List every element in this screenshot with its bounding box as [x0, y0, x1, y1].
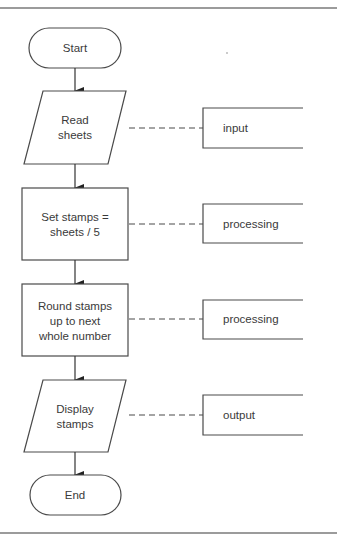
annotation-output-label: output	[223, 409, 256, 421]
scan-speck	[226, 52, 228, 54]
start-terminal: Start	[29, 28, 121, 68]
end-terminal: End	[30, 475, 121, 515]
annotation-processing-1: processing	[203, 204, 303, 243]
display-label-line1: Display	[56, 403, 94, 415]
read-label-line2: sheets	[58, 129, 92, 141]
set-label-line2: sheets / 5	[50, 226, 100, 238]
display-stamps-io: Display stamps	[24, 380, 126, 452]
annotation-processing-2-label: processing	[223, 313, 279, 325]
flowchart-diagram: Start Read sheets input Set stamps = she…	[0, 0, 337, 540]
annotation-input-label: input	[223, 122, 249, 134]
round-label-line2: up to next	[50, 315, 101, 327]
display-label-line2: stamps	[56, 418, 93, 430]
annotation-processing-1-label: processing	[223, 218, 279, 230]
round-label-line1: Round stamps	[38, 300, 112, 312]
annotation-processing-2: processing	[203, 300, 303, 339]
round-label-line3: whole number	[38, 330, 111, 342]
round-stamps-process: Round stamps up to next whole number	[22, 284, 128, 356]
annotation-output: output	[203, 395, 303, 435]
set-label-line1: Set stamps =	[41, 211, 109, 223]
read-sheets-io: Read sheets	[24, 91, 126, 164]
read-label-line1: Read	[61, 114, 89, 126]
annotation-input: input	[203, 108, 303, 148]
end-label: End	[65, 489, 85, 501]
set-stamps-process: Set stamps = sheets / 5	[22, 188, 128, 260]
start-label: Start	[63, 42, 88, 54]
